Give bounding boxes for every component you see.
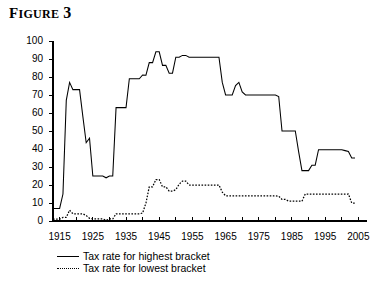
y-tick-label: 40 (32, 144, 43, 154)
y-tick-label: 30 (32, 162, 43, 172)
figure-title-number: 3 (63, 4, 71, 21)
x-tick-label: 1945 (148, 231, 170, 242)
y-tick-label: 20 (32, 180, 43, 190)
series-line-lowest-bracket (53, 180, 355, 221)
figure-title-word: IGURE (18, 7, 59, 21)
y-tick-label: 80 (32, 72, 43, 82)
y-axis-tick-labels: 0102030405060708090100 (0, 37, 43, 229)
y-tick-label: 70 (32, 90, 43, 100)
caption-fragment (36, 277, 376, 286)
x-tick-label: 1925 (82, 231, 104, 242)
x-tick-label: 1985 (281, 231, 303, 242)
data-series (53, 52, 355, 221)
x-axis-tick-labels: 1915192519351945195519651975198519952005 (47, 231, 369, 245)
legend-swatch-dotted-line (57, 263, 79, 273)
chart-canvas (47, 37, 369, 229)
legend-swatch-solid-line (57, 251, 79, 261)
x-tick-label: 1955 (181, 231, 203, 242)
y-tick-label: 50 (32, 126, 43, 136)
x-tick-label: 1995 (314, 231, 336, 242)
chart-legend: Tax rate for highest bracket Tax rate fo… (57, 250, 210, 274)
legend-item-highest: Tax rate for highest bracket (57, 250, 210, 262)
x-tick-label: 1975 (248, 231, 270, 242)
figure-container: FIGURE3 0102030405060708090100 191519251… (0, 0, 381, 286)
y-tick-label: 60 (32, 108, 43, 118)
series-line-highest-bracket (53, 52, 355, 209)
plot-area (47, 37, 369, 229)
x-tick-label: 2005 (347, 231, 369, 242)
y-tick-label: 10 (32, 198, 43, 208)
x-tick-label: 1965 (214, 231, 236, 242)
y-tick-label: 90 (32, 54, 43, 64)
legend-label-lowest: Tax rate for lowest bracket (83, 262, 206, 274)
x-tick-label: 1915 (49, 231, 71, 242)
figure-title: FIGURE3 (9, 4, 72, 22)
legend-label-highest: Tax rate for highest bracket (83, 250, 210, 262)
y-tick-label: 0 (37, 216, 43, 226)
x-tick-label: 1935 (115, 231, 137, 242)
legend-item-lowest: Tax rate for lowest bracket (57, 262, 210, 274)
y-tick-label: 100 (26, 36, 43, 46)
